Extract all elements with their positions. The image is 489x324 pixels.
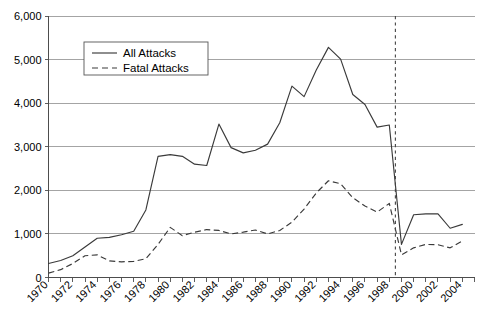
series-line-all-attacks	[49, 47, 463, 263]
y-tick-label: 4,000	[14, 97, 42, 109]
y-axis-tick-labels: 01,0002,0003,0004,0005,0006,000	[14, 10, 42, 284]
x-tick-label: 1978	[121, 278, 147, 304]
x-tick-label: 1994	[316, 278, 342, 304]
x-tick-label: 1980	[146, 278, 172, 304]
x-tick-label: 1976	[97, 278, 123, 304]
x-tick-label: 1972	[48, 278, 74, 304]
x-tick-label: 2000	[389, 278, 415, 304]
x-axis-tick-labels: 1970197219741976197819801982198419861988…	[24, 278, 464, 304]
line-chart: 01,0002,0003,0004,0005,0006,000 19701972…	[0, 0, 489, 324]
x-tick-label: 1998	[365, 278, 391, 304]
y-tick-label: 1,000	[14, 228, 42, 240]
x-tick-label: 2004	[438, 278, 464, 304]
x-tick-label: 1992	[292, 278, 318, 304]
chart-container: 01,0002,0003,0004,0005,0006,000 19701972…	[0, 0, 489, 324]
x-tick-label: 1988	[243, 278, 269, 304]
x-tick-label: 1990	[268, 278, 294, 304]
x-tick-label: 2002	[414, 278, 440, 304]
y-tick-label: 6,000	[14, 10, 42, 22]
y-tick-label: 5,000	[14, 54, 42, 66]
x-tick-label: 1986	[219, 278, 245, 304]
x-tick-label: 1996	[341, 278, 367, 304]
legend-label-fatal-attacks: Fatal Attacks	[123, 62, 189, 74]
x-tick-label: 1982	[170, 278, 196, 304]
x-tick-label: 1984	[195, 278, 221, 304]
y-tick-label: 3,000	[14, 141, 42, 153]
chart-legend: All AttacksFatal Attacks	[84, 42, 208, 75]
data-series	[49, 47, 463, 273]
legend-label-all-attacks: All Attacks	[123, 47, 176, 59]
y-tick-label: 2,000	[14, 184, 42, 196]
x-tick-label: 1974	[73, 278, 99, 304]
x-tick-label: 1970	[24, 278, 50, 304]
